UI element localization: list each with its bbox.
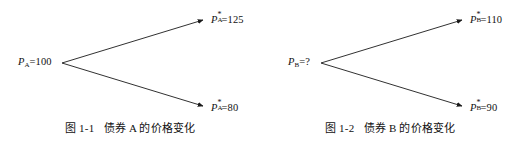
price-tree-diagram-b: PB=? P*B=110 P*B=90 (260, 0, 520, 120)
up-subscript-a: A (218, 17, 223, 24)
up-value-b: 110 (487, 14, 503, 25)
node-label-up-a: P*A=125 (211, 13, 244, 26)
price-tree-diagram-a: PA=100 P*A=125 P*A=80 (0, 0, 260, 120)
branch-arrow-down-a (62, 63, 203, 106)
up-subscript-b: B (477, 17, 482, 24)
node-label-down-a: P*A=80 (211, 101, 238, 114)
down-subscript-b: B (477, 105, 482, 112)
figure-caption-number-b: 图 1-2 (325, 122, 355, 134)
root-value-a: 100 (36, 56, 52, 67)
down-subscript-a: A (218, 105, 223, 112)
figure-1-2: PB=? P*B=110 P*B=90 图 1-2债券 B 的价格变化 (260, 0, 520, 148)
figure-caption-text-a: 债券 A 的价格变化 (104, 122, 196, 134)
figure-caption-b: 图 1-2债券 B 的价格变化 (260, 122, 520, 135)
node-label-root-b: PB=? (288, 57, 310, 69)
down-value-b: 90 (487, 102, 498, 113)
figure-caption-a: 图 1-1债券 A 的价格变化 (0, 122, 260, 135)
root-value-b: ? (305, 56, 310, 67)
node-label-down-b: P*B=90 (470, 101, 497, 114)
node-label-root-a: PA=100 (18, 57, 52, 69)
up-value-a: 125 (228, 14, 244, 25)
branch-arrow-up-b (321, 20, 462, 63)
figure-caption-number-a: 图 1-1 (65, 122, 95, 134)
branch-arrow-up-a (62, 20, 203, 63)
down-value-a: 80 (228, 102, 239, 113)
figure-pair-page: PA=100 P*A=125 P*A=80 图 1-1债券 A 的价格变化 (0, 0, 520, 148)
figure-1-1: PA=100 P*A=125 P*A=80 图 1-1债券 A 的价格变化 (0, 0, 260, 148)
figure-caption-text-b: 债券 B 的价格变化 (364, 122, 456, 134)
node-label-up-b: P*B=110 (470, 13, 502, 26)
branch-arrow-down-b (321, 63, 462, 106)
